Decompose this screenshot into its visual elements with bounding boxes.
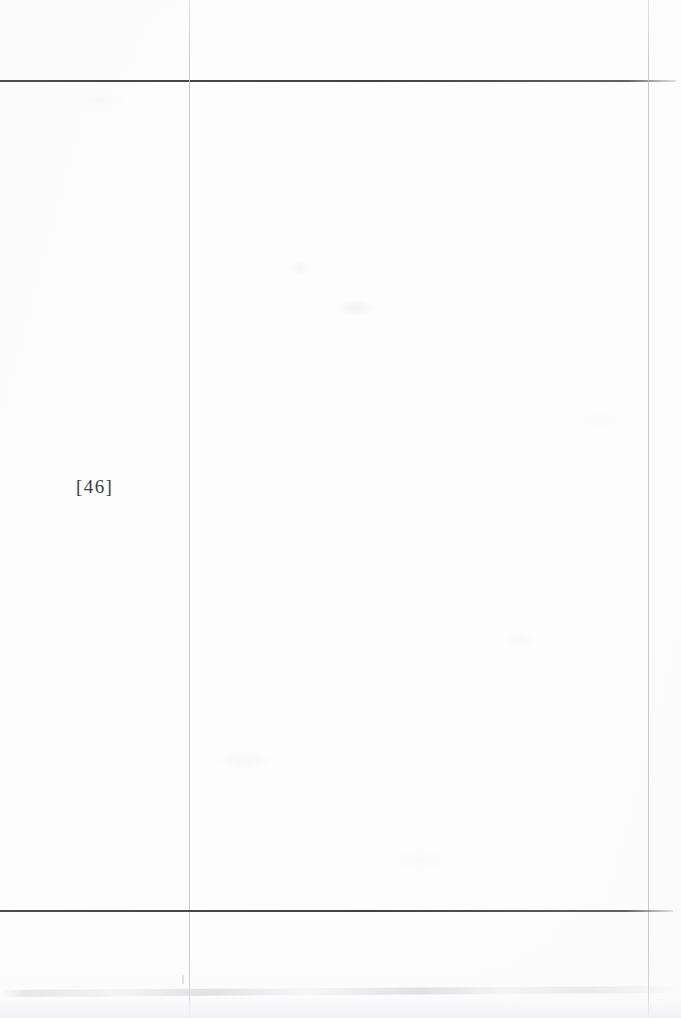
- paper-surface: [0, 0, 681, 1018]
- bottom-border-rule: [0, 910, 673, 912]
- scanned-page: [46]: [0, 0, 681, 1018]
- scanner-edge-smudge: [0, 986, 681, 997]
- page-number: [46]: [76, 477, 113, 496]
- scanner-edge-haze: [0, 998, 681, 1018]
- left-margin-rule: [189, 0, 190, 1018]
- right-margin-rule: [648, 0, 649, 1018]
- paper-grain-texture: [0, 0, 681, 1018]
- scanner-tick-mark: [182, 975, 184, 984]
- top-border-rule: [0, 80, 676, 82]
